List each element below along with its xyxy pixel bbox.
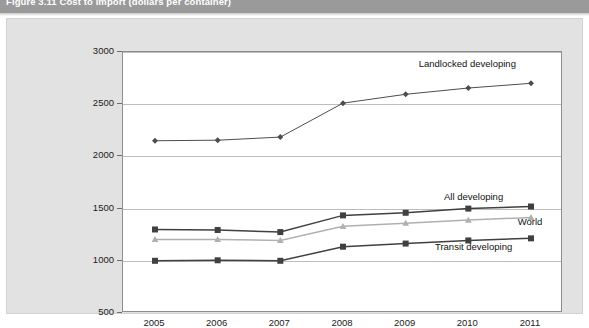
chart-panel: 50010001500200025003000 2005200620072008… [6, 18, 583, 314]
data-point-square [528, 235, 534, 241]
data-point-square [340, 212, 346, 218]
y-tick-label: 2000 [70, 149, 114, 160]
x-tick-label: 2011 [507, 317, 553, 328]
plot-area [122, 51, 562, 312]
data-point-square [215, 257, 221, 263]
data-point-diamond [152, 138, 158, 144]
data-point-diamond [403, 91, 409, 97]
data-point-diamond [528, 80, 534, 86]
data-point-square [215, 227, 221, 233]
data-point-square [403, 241, 409, 247]
x-tick-label: 2008 [319, 317, 365, 328]
data-point-square [152, 226, 158, 232]
series-label: Landlocked developing [419, 58, 516, 69]
x-tick-label: 2006 [194, 317, 240, 328]
series-label: All developing [444, 191, 503, 202]
x-tick-label: 2005 [131, 317, 177, 328]
series-label: Transit developing [435, 241, 512, 252]
data-point-diamond [465, 85, 471, 91]
data-point-square [277, 258, 283, 264]
y-tick-label: 2500 [70, 97, 114, 108]
title-band-shadow [0, 13, 589, 16]
x-tick-label: 2010 [444, 317, 490, 328]
page-title: Figure 3.11 Cost to import (dollars per … [6, 0, 231, 7]
data-point-square [403, 210, 409, 216]
series-line [155, 217, 531, 240]
x-tick-label: 2007 [256, 317, 302, 328]
data-point-diamond [340, 100, 346, 106]
x-tick-label: 2009 [382, 317, 428, 328]
data-point-diamond [277, 134, 283, 140]
series-label: World [518, 216, 543, 227]
y-tick-label: 1000 [70, 254, 114, 265]
series-layer [123, 52, 563, 313]
series-landlocked-developing [152, 80, 534, 143]
series-world [152, 214, 535, 243]
y-tick-mark [117, 312, 122, 313]
series-line [155, 83, 531, 140]
y-tick-label: 1500 [70, 202, 114, 213]
data-point-square [152, 258, 158, 264]
data-point-square [277, 229, 283, 235]
y-tick-label: 500 [70, 306, 114, 317]
data-point-square [465, 206, 471, 212]
data-point-diamond [215, 137, 221, 143]
figure-title-band: Figure 3.11 Cost to import (dollars per … [0, 0, 589, 13]
data-point-square [528, 204, 534, 210]
data-point-square [340, 244, 346, 250]
y-tick-label: 3000 [70, 45, 114, 56]
